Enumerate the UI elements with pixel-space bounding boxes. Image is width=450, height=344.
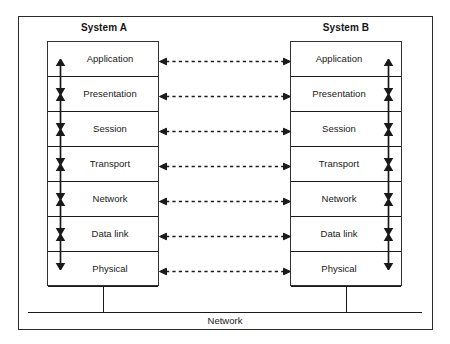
layer-network-a: Network [48, 182, 158, 217]
system-a-layer-stack: Application Presentation Session Transpo… [47, 41, 159, 286]
layer-application-a: Application [48, 42, 158, 77]
layer-label: Transport [319, 159, 373, 169]
layer-physical-a: Physical [48, 252, 158, 287]
layer-label: Session [322, 124, 370, 134]
layer-datalink-a: Data link [48, 217, 158, 252]
layer-label: Presentation [312, 89, 379, 99]
layer-session-b: Session [291, 112, 401, 147]
layer-presentation-b: Presentation [291, 77, 401, 112]
layer-session-a: Session [48, 112, 158, 147]
layer-label: Network [79, 194, 128, 204]
layer-presentation-a: Presentation [48, 77, 158, 112]
system-a-title: System A [48, 22, 160, 33]
layer-label: Application [316, 54, 376, 64]
layer-transport-a: Transport [48, 147, 158, 182]
layer-label: Application [73, 54, 133, 64]
layer-label: Transport [76, 159, 130, 169]
layer-label: Data link [321, 229, 372, 239]
system-b-title: System B [290, 22, 402, 33]
layer-physical-b: Physical [291, 252, 401, 287]
network-bus-label: Network [28, 315, 422, 326]
system-a-bus-drop-line [103, 286, 104, 313]
diagram-canvas: System A Application Presentation Sessio… [0, 0, 450, 344]
layer-label: Data link [78, 229, 129, 239]
network-bus-line [28, 312, 422, 313]
layer-label: Physical [78, 264, 127, 274]
layer-datalink-b: Data link [291, 217, 401, 252]
layer-application-b: Application [291, 42, 401, 77]
system-b-bus-drop-line [346, 286, 347, 313]
layer-label: Session [79, 124, 127, 134]
layer-label: Presentation [69, 89, 136, 99]
layer-network-b: Network [291, 182, 401, 217]
layer-label: Network [322, 194, 371, 204]
system-b-layer-stack: Application Presentation Session Transpo… [290, 41, 402, 286]
layer-label: Physical [321, 264, 370, 274]
layer-transport-b: Transport [291, 147, 401, 182]
